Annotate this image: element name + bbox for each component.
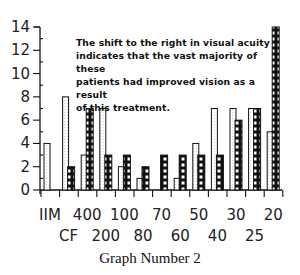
x-tick-label: 100	[110, 207, 139, 223]
x-tick-label: 40	[208, 228, 227, 244]
y-tick-label: 8	[0, 89, 30, 105]
x-tick-label: 60	[171, 228, 190, 244]
x-tick-label: 20	[264, 207, 283, 223]
y-tick-label: 2	[0, 159, 30, 175]
bar-chart: 02468101214 IIMCF40020010080706050403025…	[0, 0, 300, 275]
x-tick-label: IIM	[39, 207, 61, 223]
x-tick-label: 400	[73, 207, 102, 223]
y-tick-label: 4	[0, 135, 30, 151]
annotation-line: patients had improved vision as a result	[76, 75, 276, 101]
bar-after-30	[235, 120, 242, 190]
x-tick-label: 30	[226, 207, 245, 223]
x-tick-label: 70	[152, 207, 171, 223]
bar-after-400	[86, 109, 93, 191]
annotation-line: The shift to the right in visual acuity	[76, 36, 276, 49]
chart-caption: Graph Number 2	[0, 250, 300, 267]
bar-after-200	[105, 155, 112, 190]
bar-after-80	[142, 167, 149, 190]
annotation-line: indicates that the vast majority of thes…	[76, 49, 276, 75]
y-tick-label: 14	[0, 19, 30, 35]
bar-after-25	[254, 109, 261, 191]
bar-after-CF	[68, 167, 75, 190]
bar-after-60	[179, 155, 186, 190]
bar-after-100	[123, 155, 130, 190]
x-tick-label: 200	[91, 228, 120, 244]
x-tick-label: CF	[59, 228, 78, 244]
x-tick-label: 25	[245, 228, 264, 244]
y-tick-label: 0	[0, 182, 30, 198]
bar-after-70	[161, 155, 168, 190]
bar-after-40	[216, 155, 223, 190]
y-tick-label: 10	[0, 66, 30, 82]
y-tick-label: 6	[0, 112, 30, 128]
annotation-line: of this treatment.	[76, 101, 276, 114]
bar-before-IIM	[44, 143, 50, 190]
chart-annotation: The shift to the right in visual acuity …	[76, 36, 276, 114]
y-tick-label: 12	[0, 42, 30, 58]
bar-after-50	[198, 155, 205, 190]
x-tick-label: 80	[133, 228, 152, 244]
x-tick-label: 50	[189, 207, 208, 223]
